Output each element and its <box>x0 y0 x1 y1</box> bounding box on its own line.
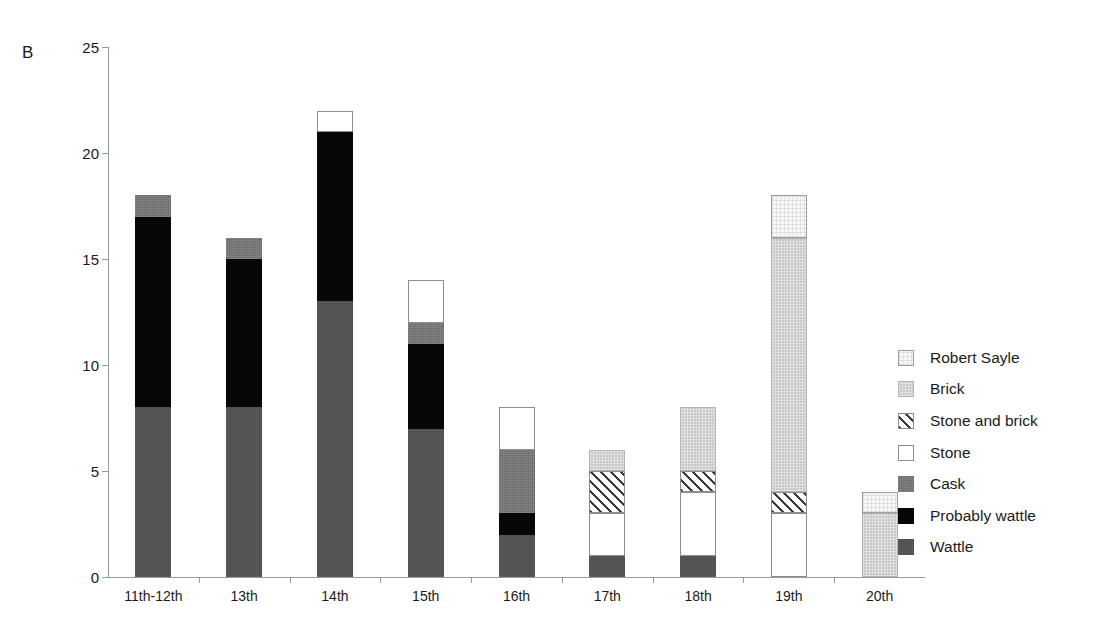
bar-segment-cask[interactable] <box>135 195 171 216</box>
legend-label: Wattle <box>930 538 973 556</box>
stacked-bar[interactable] <box>226 238 262 577</box>
y-axis-tick <box>102 365 108 366</box>
x-axis-tick <box>834 577 835 583</box>
legend-swatch-cask <box>898 476 914 492</box>
bar-segment-wattle[interactable] <box>408 429 444 577</box>
legend-label: Brick <box>930 380 964 398</box>
legend-swatch-wattle <box>898 539 914 555</box>
x-axis-tick-label: 17th <box>594 588 621 604</box>
legend-swatch-probably-wattle <box>898 508 914 524</box>
bar-segment-brick[interactable] <box>680 407 716 471</box>
x-axis-tick <box>562 577 563 583</box>
bar-segment-stone[interactable] <box>317 111 353 132</box>
legend-item-cask[interactable]: Cask <box>898 468 1038 500</box>
bar-segment-wattle[interactable] <box>317 301 353 577</box>
y-axis-tick-label: 5 <box>91 463 99 480</box>
legend-item-robert-sayle[interactable]: Robert Sayle <box>898 342 1038 374</box>
y-axis-tick <box>102 47 108 48</box>
bar-segment-probably-wattle[interactable] <box>135 217 171 408</box>
stacked-bar[interactable] <box>680 407 716 577</box>
legend-label: Stone <box>930 444 971 462</box>
bar-segment-stone[interactable] <box>771 513 807 577</box>
y-axis-tick-label: 25 <box>82 39 99 56</box>
x-axis-tick <box>380 577 381 583</box>
bar-segment-wattle[interactable] <box>589 556 625 577</box>
bar-segment-probably-wattle[interactable] <box>317 132 353 302</box>
bar-segment-stone[interactable] <box>408 280 444 322</box>
x-axis-tick-label: 18th <box>684 588 711 604</box>
stacked-bar[interactable] <box>862 492 898 577</box>
legend-label: Cask <box>930 475 965 493</box>
stacked-bar-chart-figure: B 0510152025 11th-12th13th14th15th16th17… <box>0 0 1118 625</box>
legend-label: Stone and brick <box>930 412 1038 430</box>
bar-segment-robert-sayle[interactable] <box>771 195 807 237</box>
y-axis-line <box>108 47 109 577</box>
y-axis-tick <box>102 471 108 472</box>
bar-segment-cask[interactable] <box>408 323 444 344</box>
bar-segment-wattle[interactable] <box>226 407 262 577</box>
x-axis-tick <box>290 577 291 583</box>
y-axis-tick-label: 15 <box>82 251 99 268</box>
stacked-bar[interactable] <box>317 111 353 577</box>
y-axis-tick <box>102 577 108 578</box>
stacked-bar[interactable] <box>771 195 807 577</box>
x-axis-tick-label: 14th <box>321 588 348 604</box>
legend-item-stone[interactable]: Stone <box>898 437 1038 469</box>
x-axis-line <box>108 577 925 578</box>
legend-label: Probably wattle <box>930 507 1036 525</box>
stacked-bar[interactable] <box>135 195 171 577</box>
legend-item-wattle[interactable]: Wattle <box>898 532 1038 564</box>
y-axis-tick-label: 0 <box>91 569 99 586</box>
legend: Robert SayleBrickStone and brickStoneCas… <box>898 342 1038 563</box>
legend-swatch-robert-sayle <box>898 350 914 366</box>
bar-segment-stone[interactable] <box>589 513 625 555</box>
bar-segment-stone[interactable] <box>499 407 535 449</box>
legend-swatch-brick <box>898 381 914 397</box>
bar-segment-wattle[interactable] <box>499 535 535 577</box>
y-axis-tick-label: 10 <box>82 357 99 374</box>
x-axis-tick-label: 20th <box>866 588 893 604</box>
stacked-bar[interactable] <box>499 407 535 577</box>
x-axis-tick <box>471 577 472 583</box>
legend-item-brick[interactable]: Brick <box>898 374 1038 406</box>
panel-label: B <box>22 44 33 61</box>
x-axis-tick <box>653 577 654 583</box>
bar-segment-brick[interactable] <box>771 238 807 492</box>
bar-segment-stone[interactable] <box>680 492 716 556</box>
bar-segment-probably-wattle[interactable] <box>408 344 444 429</box>
bar-segment-cask[interactable] <box>226 238 262 259</box>
x-axis-tick-label: 16th <box>503 588 530 604</box>
x-axis-tick <box>199 577 200 583</box>
plot-area: 0510152025 11th-12th13th14th15th16th17th… <box>108 47 925 577</box>
x-axis-tick-label: 11th-12th <box>124 588 182 604</box>
x-axis-tick <box>743 577 744 583</box>
y-axis-tick-label: 20 <box>82 145 99 162</box>
stacked-bar[interactable] <box>408 280 444 577</box>
bar-segment-probably-wattle[interactable] <box>226 259 262 407</box>
legend-swatch-stone-and-brick <box>898 413 914 429</box>
y-axis-tick <box>102 153 108 154</box>
x-axis-tick-label: 19th <box>775 588 802 604</box>
y-axis-tick <box>102 259 108 260</box>
legend-swatch-stone <box>898 445 914 461</box>
bar-segment-stone-and-brick[interactable] <box>771 492 807 513</box>
legend-label: Robert Sayle <box>930 349 1020 367</box>
bar-segment-brick[interactable] <box>589 450 625 471</box>
bar-segment-stone-and-brick[interactable] <box>589 471 625 513</box>
bar-segment-robert-sayle[interactable] <box>862 492 898 513</box>
legend-item-probably-wattle[interactable]: Probably wattle <box>898 500 1038 532</box>
bar-segment-wattle[interactable] <box>135 407 171 577</box>
x-axis-tick-label: 13th <box>231 588 258 604</box>
bar-segment-wattle[interactable] <box>680 556 716 577</box>
bar-segment-cask[interactable] <box>499 450 535 514</box>
stacked-bar[interactable] <box>589 450 625 577</box>
x-axis-tick-label: 15th <box>412 588 439 604</box>
bar-segment-probably-wattle[interactable] <box>499 513 535 534</box>
legend-item-stone-and-brick[interactable]: Stone and brick <box>898 405 1038 437</box>
bar-segment-stone-and-brick[interactable] <box>680 471 716 492</box>
bar-segment-brick[interactable] <box>862 513 898 577</box>
